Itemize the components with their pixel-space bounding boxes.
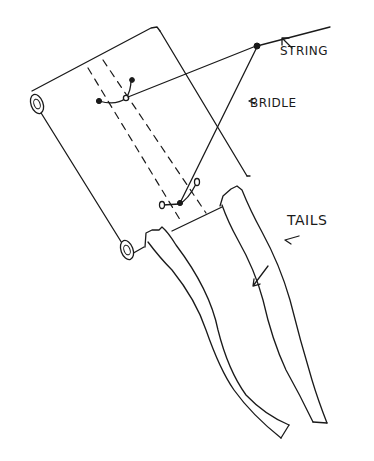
tails-arrow-icon xyxy=(285,236,299,244)
string-label: STRING xyxy=(280,44,328,58)
tails-label: TAILS xyxy=(287,212,327,228)
bridle-line xyxy=(128,43,260,203)
top-dowel-roll xyxy=(28,93,46,116)
bridle-label: BRIDLE xyxy=(250,96,297,110)
spine-fold-dashed-lines xyxy=(88,60,206,223)
kite-diagram: STRING BRIDLE TAILS xyxy=(0,0,374,461)
left-tail xyxy=(145,227,289,438)
